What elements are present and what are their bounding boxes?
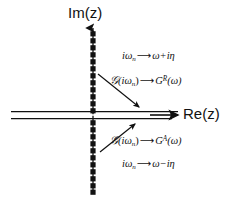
upper-mapping-rhs: ω+iη bbox=[152, 50, 175, 61]
retarded-green-function-equation: 𝒢(iωn)⟶GR(ω) bbox=[110, 73, 182, 88]
retarded-g-symbol: G bbox=[155, 75, 163, 86]
lower-mapping-lhs: iω bbox=[122, 158, 132, 169]
upper-frequency-mapping: iωn⟶ω+iη bbox=[122, 50, 175, 63]
lower-gf-arg: (iω bbox=[118, 135, 132, 146]
script-g-symbol-upper: 𝒢 bbox=[110, 73, 118, 87]
advanced-g-symbol: G bbox=[155, 135, 163, 146]
upper-gf-arg: (iω bbox=[118, 75, 132, 86]
advanced-g-arg: (ω) bbox=[167, 135, 181, 146]
upper-gf-arrow: ⟶ bbox=[139, 75, 155, 86]
retarded-g-arg: (ω) bbox=[167, 75, 181, 86]
lower-gf-arrow: ⟶ bbox=[139, 135, 155, 146]
imaginary-axis-label: Im(z) bbox=[68, 4, 102, 21]
upper-mapping-arrow: ⟶ bbox=[136, 50, 152, 61]
matsubara-markers bbox=[90, 31, 95, 195]
lower-mapping-arrow: ⟶ bbox=[136, 158, 152, 169]
script-g-symbol-lower: 𝒢 bbox=[110, 133, 118, 147]
lower-frequency-mapping: iωn⟶ω−iη bbox=[122, 158, 175, 171]
complex-plane-figure: Im(z) Re(z) iωn⟶ω+iη 𝒢(iωn)⟶GR(ω) 𝒢(iωn)… bbox=[0, 0, 232, 201]
lower-mapping-rhs: ω−iη bbox=[152, 158, 175, 169]
upper-mapping-lhs: iω bbox=[122, 50, 132, 61]
advanced-green-function-equation: 𝒢(iωn)⟶GA(ω) bbox=[110, 133, 182, 148]
real-axis-label: Re(z) bbox=[183, 105, 220, 122]
diagram-canvas bbox=[0, 0, 232, 201]
